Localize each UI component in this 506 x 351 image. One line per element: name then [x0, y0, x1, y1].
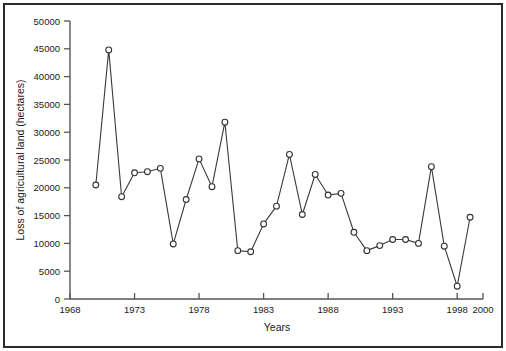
y-axis-tick-marks [64, 21, 70, 299]
data-point-marker [299, 212, 305, 218]
data-point-marker [132, 170, 138, 176]
data-point-marker [325, 192, 331, 198]
y-tick-label: 10000 [34, 238, 60, 249]
y-axis-tick-labels: 0500010000150002000025000300003500040000… [34, 16, 60, 305]
y-tick-label: 5000 [39, 266, 60, 277]
data-point-marker [441, 243, 447, 249]
x-axis-title: Years [264, 321, 290, 333]
line-chart-canvas: 0500010000150002000025000300003500040000… [0, 0, 506, 351]
y-tick-label: 20000 [34, 182, 60, 193]
x-tick-label: 1978 [188, 304, 209, 315]
x-tick-label: 1988 [318, 304, 339, 315]
data-point-marker [351, 229, 357, 235]
data-point-marker [183, 197, 189, 203]
data-point-marker [403, 237, 409, 243]
chart-figure: 0500010000150002000025000300003500040000… [0, 0, 506, 351]
data-point-marker [428, 164, 434, 170]
data-point-marker [338, 190, 344, 196]
x-axis-tick-marks [70, 293, 483, 299]
data-point-marker [467, 214, 473, 220]
data-series-line [96, 50, 470, 286]
data-point-marker [145, 169, 151, 175]
data-point-marker [454, 283, 460, 289]
data-point-marker [119, 194, 125, 200]
data-point-marker [261, 221, 267, 227]
x-tick-label: 1998 [447, 304, 468, 315]
data-point-marker [377, 243, 383, 249]
y-axis-title: Loss of agricultural land (hectares) [14, 79, 26, 240]
x-tick-label: 1973 [124, 304, 145, 315]
data-point-marker [235, 248, 241, 254]
x-tick-label: 1993 [382, 304, 403, 315]
y-tick-label: 45000 [34, 43, 60, 54]
x-axis-tick-labels: 19681973197819831988199319982000 [59, 304, 493, 315]
data-point-marker [222, 119, 228, 125]
x-tick-label: 1968 [59, 304, 80, 315]
y-tick-label: 25000 [34, 155, 60, 166]
data-point-marker [390, 237, 396, 243]
data-point-marker [364, 248, 370, 254]
data-point-marker [312, 172, 318, 178]
y-tick-label: 40000 [34, 71, 60, 82]
x-tick-label: 2000 [472, 304, 493, 315]
data-point-marker [157, 165, 163, 171]
x-tick-label: 1983 [253, 304, 274, 315]
data-point-marker [170, 241, 176, 247]
data-point-marker [416, 241, 422, 247]
data-point-markers [93, 47, 473, 289]
data-point-marker [93, 182, 99, 188]
data-point-marker [106, 47, 112, 53]
y-tick-label: 50000 [34, 16, 60, 27]
y-tick-label: 0 [55, 294, 60, 305]
data-point-marker [196, 156, 202, 162]
y-tick-label: 30000 [34, 127, 60, 138]
data-point-marker [274, 203, 280, 209]
data-point-marker [209, 184, 215, 190]
data-point-marker [248, 249, 254, 255]
data-point-marker [287, 152, 293, 158]
y-tick-label: 15000 [34, 210, 60, 221]
y-tick-label: 35000 [34, 99, 60, 110]
